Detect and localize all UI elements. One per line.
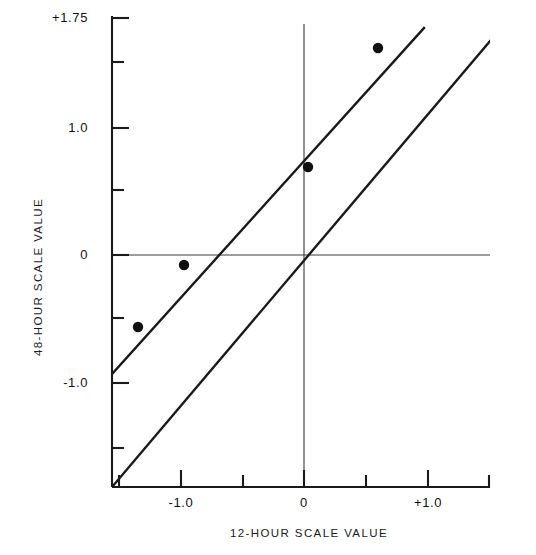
x-tick-label-1.0: +1.0 — [388, 495, 468, 510]
y-tick-label--1.0: -1.0 — [18, 375, 88, 390]
data-lines — [112, 27, 502, 487]
data-point-markers — [133, 43, 383, 332]
y-tick-label-0: 0 — [18, 247, 88, 262]
fitted-regression-line — [112, 28, 424, 374]
x-tick-label-0: 0 — [264, 495, 344, 510]
data-point — [373, 43, 383, 53]
y-tick-label-1.0: 1.0 — [18, 120, 88, 135]
data-point — [303, 162, 313, 172]
x-axis-title: 12-HOUR SCALE VALUE — [119, 527, 499, 539]
axis-spines — [112, 16, 490, 487]
y-axis-title: 48-HOUR SCALE VALUE — [32, 177, 44, 377]
y-axis-ticks — [112, 18, 129, 448]
identity-line — [112, 27, 502, 487]
x-axis-ticks — [119, 470, 489, 487]
y-tick-label-1.75: +1.75 — [18, 10, 88, 25]
zero-reference-lines — [112, 24, 490, 487]
scatter-plot-figure: +1.75 1.0 0 -1.0 -1.0 0 +1.0 48-HOUR SCA… — [0, 0, 536, 555]
plot-canvas — [0, 0, 536, 555]
data-point — [133, 322, 143, 332]
x-tick-label--1.0: -1.0 — [141, 495, 221, 510]
data-point — [179, 260, 189, 270]
